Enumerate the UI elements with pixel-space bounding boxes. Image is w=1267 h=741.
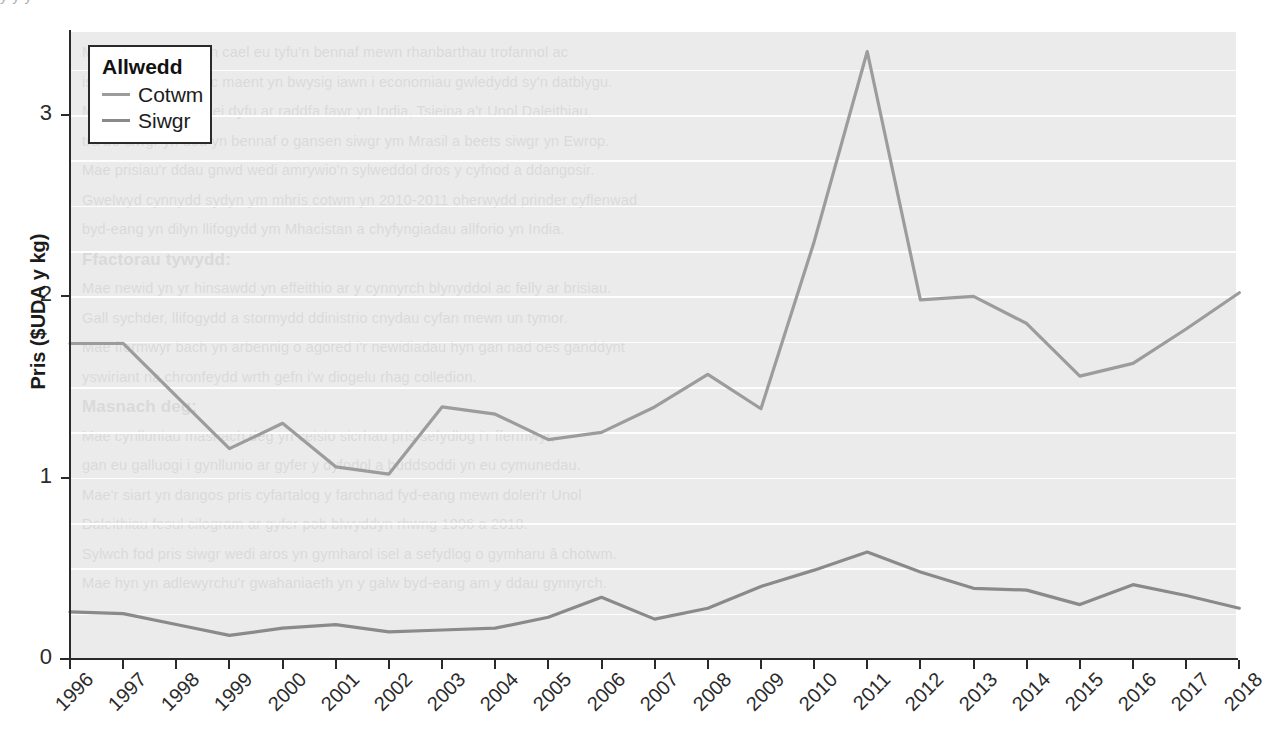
x-axis-tick bbox=[547, 660, 549, 669]
y-axis-tick-label: 0 bbox=[12, 644, 52, 670]
x-axis-tick bbox=[441, 660, 443, 669]
x-axis-tick bbox=[282, 660, 284, 669]
legend: Allwedd Cotwm Siwgr bbox=[88, 45, 212, 144]
y-axis-tick bbox=[61, 295, 70, 297]
y-axis-line bbox=[69, 30, 71, 661]
x-axis-tick bbox=[1026, 660, 1028, 669]
x-axis-tick bbox=[919, 660, 921, 669]
series-line-siwgr bbox=[70, 552, 1239, 635]
x-axis-tick bbox=[654, 660, 656, 669]
legend-label-siwgr: Siwgr bbox=[138, 109, 191, 133]
x-axis-tick bbox=[707, 660, 709, 669]
legend-label-cotwm: Cotwm bbox=[138, 83, 203, 107]
x-axis-tick bbox=[813, 660, 815, 669]
page-text-bleed: y y y bbox=[0, 0, 1242, 16]
legend-title: Allwedd bbox=[102, 55, 200, 79]
y-axis-label: Pris ($UDA y kg) bbox=[27, 182, 50, 442]
x-axis-tick bbox=[228, 660, 230, 669]
x-axis-tick bbox=[494, 660, 496, 669]
x-axis-tick bbox=[866, 660, 868, 669]
x-axis-line bbox=[60, 658, 1238, 660]
legend-swatch-cotwm bbox=[102, 93, 130, 96]
y-axis-tick-label: 1 bbox=[12, 463, 52, 489]
series-line-cotwm bbox=[70, 52, 1239, 475]
x-axis-tick bbox=[1238, 660, 1240, 669]
y-axis-tick-label: 3 bbox=[12, 100, 52, 126]
x-axis-tick bbox=[760, 660, 762, 669]
x-axis-tick bbox=[388, 660, 390, 669]
x-axis-tick bbox=[335, 660, 337, 669]
x-axis-tick bbox=[1079, 660, 1081, 669]
x-axis-tick bbox=[601, 660, 603, 669]
plot-area: Mae'r cnydau hyn yn cael eu tyfu'n benna… bbox=[70, 32, 1236, 659]
legend-item-siwgr[interactable]: Siwgr bbox=[102, 109, 200, 133]
x-axis-tick bbox=[1185, 660, 1187, 669]
x-axis-tick bbox=[973, 660, 975, 669]
series-lines bbox=[70, 32, 1236, 659]
y-axis-tick bbox=[61, 114, 70, 116]
x-axis-tick bbox=[175, 660, 177, 669]
x-axis-tick bbox=[122, 660, 124, 669]
y-axis-tick bbox=[61, 477, 70, 479]
x-axis-tick bbox=[1132, 660, 1134, 669]
x-axis-tick bbox=[69, 660, 71, 669]
page-text-bleed-line: y y y bbox=[0, 0, 32, 4]
legend-swatch-siwgr bbox=[102, 119, 130, 122]
legend-item-cotwm[interactable]: Cotwm bbox=[102, 83, 200, 107]
